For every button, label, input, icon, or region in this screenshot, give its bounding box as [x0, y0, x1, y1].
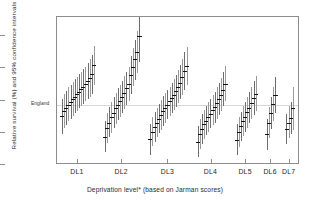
chart-figure: Relative survival (%) and 95% confidence… — [0, 0, 310, 209]
point-estimate-marker — [223, 84, 227, 85]
x-axis-title: Deprivation level* (based on Jarman scor… — [0, 186, 310, 193]
point-estimate-marker — [254, 94, 258, 95]
plot-inner — [57, 17, 298, 163]
x-tick-mark — [289, 159, 290, 164]
y-tick-mark — [0, 132, 5, 133]
y-tick-mark — [0, 35, 5, 36]
y-tick-mark — [0, 67, 5, 68]
x-tick-mark — [77, 159, 78, 164]
plot-area — [56, 16, 299, 164]
england-reference-line — [57, 105, 298, 106]
y-tick-mark — [0, 100, 5, 101]
x-tick-mark — [167, 159, 168, 164]
x-tick-label: DL5 — [238, 168, 251, 175]
point-estimate-marker — [185, 66, 189, 67]
point-estimate-marker — [273, 95, 277, 96]
y-axis-title: Relative survival (%) and 95% confidence… — [10, 1, 17, 151]
x-tick-label: DL6 — [263, 168, 276, 175]
x-tick-mark — [245, 159, 246, 164]
point-estimate-marker — [92, 65, 96, 66]
x-tick-mark — [121, 159, 122, 164]
x-tick-label: DL3 — [161, 168, 174, 175]
x-tick-mark — [211, 159, 212, 164]
england-reference-label: England — [31, 101, 49, 106]
y-tick-mark — [0, 164, 5, 165]
x-tick-label: DL7 — [282, 168, 295, 175]
point-estimate-marker — [137, 36, 141, 37]
x-tick-label: DL4 — [204, 168, 217, 175]
error-bar — [139, 17, 140, 62]
point-estimate-marker — [291, 108, 295, 109]
x-tick-label: DL1 — [70, 168, 83, 175]
x-tick-label: DL2 — [114, 168, 127, 175]
x-tick-mark — [270, 159, 271, 164]
